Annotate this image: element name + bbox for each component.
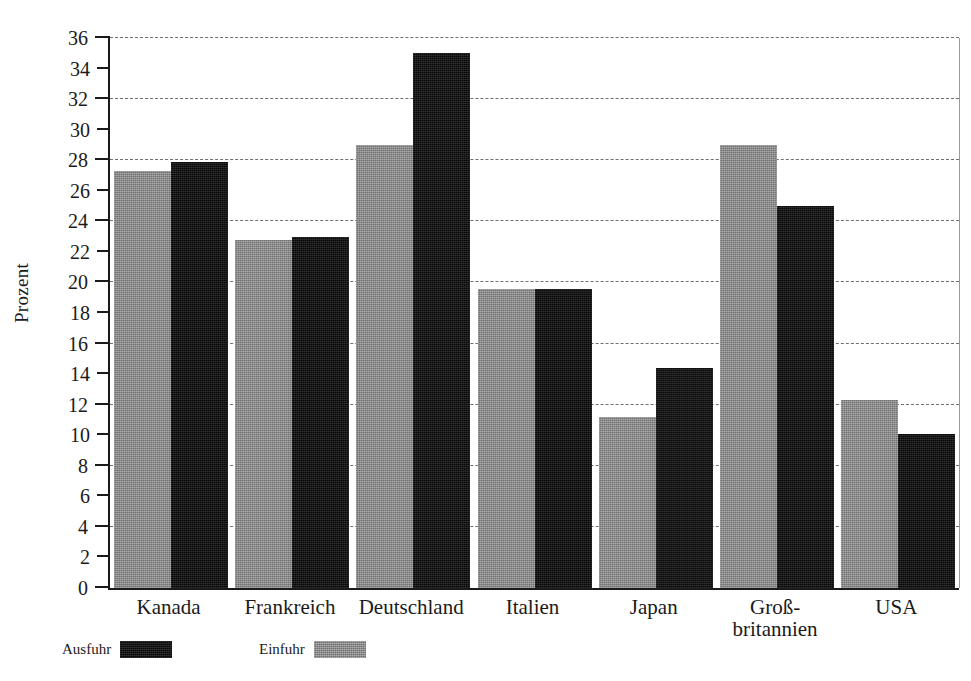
legend-entry-einfuhr: Einfuhr bbox=[259, 641, 366, 658]
y-axis-tick-label: 22 bbox=[70, 242, 90, 262]
y-axis-tick: 34 bbox=[97, 67, 110, 69]
bar-einfuhr-japan bbox=[599, 417, 656, 588]
legend-label: Einfuhr bbox=[259, 642, 305, 657]
y-axis-tick: 6 bbox=[97, 494, 110, 496]
y-axis-tick: 24 bbox=[95, 219, 110, 221]
bar-ausfuhr-japan bbox=[656, 368, 713, 588]
y-axis-tick: 26 bbox=[97, 189, 110, 191]
bar-ausfuhr-frankreich bbox=[292, 237, 349, 588]
y-axis-tick-label: 34 bbox=[70, 59, 90, 79]
bar-ausfuhr-deutschland bbox=[413, 53, 470, 588]
y-axis-tick-label: 6 bbox=[80, 486, 90, 506]
y-axis-title: Prozent bbox=[11, 233, 33, 353]
y-axis-tick-label: 2 bbox=[80, 547, 90, 567]
bar-einfuhr-deutschland bbox=[356, 145, 413, 588]
y-axis-tick: 4 bbox=[95, 525, 110, 527]
bar-ausfuhr-usa bbox=[898, 434, 955, 588]
y-axis-tick: 10 bbox=[97, 433, 110, 435]
y-axis-tick: 36 bbox=[95, 36, 110, 38]
gridline bbox=[110, 159, 959, 160]
y-axis-tick-label: 20 bbox=[68, 272, 88, 292]
bar-einfuhr-usa bbox=[841, 400, 898, 588]
bar-einfuhr-frankreich bbox=[235, 240, 292, 588]
y-axis-tick-label: 10 bbox=[70, 425, 90, 445]
legend-swatch-gray bbox=[314, 641, 366, 658]
y-axis-tick-label: 0 bbox=[78, 578, 88, 598]
y-axis-tick-label: 36 bbox=[68, 28, 88, 48]
y-axis-tick: 8 bbox=[95, 464, 110, 466]
x-axis-label: USA bbox=[824, 596, 969, 618]
y-axis-tick: 28 bbox=[95, 158, 110, 160]
y-axis-tick-label: 24 bbox=[68, 211, 88, 231]
y-axis-tick-label: 18 bbox=[70, 303, 90, 323]
bar-ausfuhr-kanada bbox=[171, 162, 228, 588]
bar-ausfuhr-italien bbox=[535, 289, 592, 588]
y-axis-tick: 32 bbox=[95, 97, 110, 99]
y-axis-tick-label: 30 bbox=[70, 120, 90, 140]
y-axis-tick-label: 12 bbox=[68, 395, 88, 415]
y-axis-tick-label: 14 bbox=[70, 364, 90, 384]
gridline bbox=[110, 37, 959, 38]
y-axis-tick-label: 16 bbox=[68, 334, 88, 354]
y-axis-tick: 16 bbox=[95, 342, 110, 344]
y-axis-tick: 20 bbox=[95, 280, 110, 282]
y-axis-tick: 18 bbox=[97, 311, 110, 313]
y-axis-tick-label: 4 bbox=[78, 517, 88, 537]
y-axis-tick: 14 bbox=[97, 372, 110, 374]
bar-ausfuhr-großbritannien bbox=[777, 206, 834, 588]
y-axis-tick: 22 bbox=[97, 250, 110, 252]
legend-label: Ausfuhr bbox=[62, 642, 111, 657]
legend-swatch-black bbox=[120, 641, 172, 658]
bar-einfuhr-italien bbox=[478, 289, 535, 588]
bar-chart-figure: Prozent 02468101214161820222426283032343… bbox=[0, 0, 971, 681]
y-axis-tick: 2 bbox=[97, 555, 110, 557]
bar-einfuhr-kanada bbox=[114, 171, 171, 588]
bar-einfuhr-großbritannien bbox=[720, 145, 777, 588]
legend-entry-ausfuhr: Ausfuhr bbox=[62, 641, 172, 658]
y-axis-tick-label: 32 bbox=[68, 89, 88, 109]
y-axis-tick-label: 26 bbox=[70, 181, 90, 201]
y-axis-tick-label: 8 bbox=[78, 456, 88, 476]
plot-area: 024681012141618202224262830323436 bbox=[108, 38, 959, 590]
y-axis-tick: 30 bbox=[97, 128, 110, 130]
gridline bbox=[110, 98, 959, 99]
y-axis-tick-label: 28 bbox=[68, 150, 88, 170]
y-axis-tick: 12 bbox=[95, 403, 110, 405]
y-axis-tick: 0 bbox=[95, 586, 110, 588]
